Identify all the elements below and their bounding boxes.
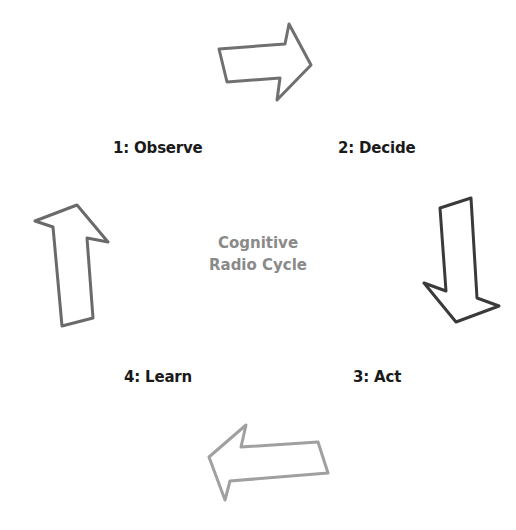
cycle-title-line2: Radio Cycle	[188, 254, 328, 276]
arrow-right-icon	[219, 24, 311, 100]
cycle-title-line1: Cognitive	[188, 232, 328, 254]
arrow-left-icon	[209, 425, 328, 500]
step-decide-label: 2: Decide	[338, 139, 415, 157]
cycle-title: Cognitive Radio Cycle	[188, 232, 328, 276]
arrow-up-icon	[35, 205, 108, 326]
step-act-label: 3: Act	[353, 368, 401, 386]
arrow-down-icon	[424, 198, 499, 322]
step-learn-label: 4: Learn	[124, 368, 192, 386]
step-observe-label: 1: Observe	[113, 139, 203, 157]
